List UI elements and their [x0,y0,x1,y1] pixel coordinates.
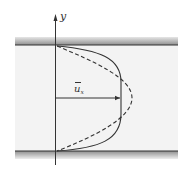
bottom-wall [15,151,178,159]
channel-flow-diagram [0,0,193,176]
top-wall [15,37,178,45]
overbar [75,82,81,83]
y-axis-arrow-icon [54,14,58,21]
mean-velocity-subscript: x [80,88,83,95]
y-axis-label: y [60,11,66,22]
mean-velocity-label: ux [74,84,84,95]
